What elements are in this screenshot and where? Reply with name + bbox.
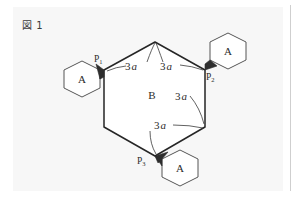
vertex-label-p3: P3: [137, 156, 146, 167]
edge-label-right: 3a: [175, 90, 188, 102]
figure-container: 図 1 B A A A 3a: [0, 0, 302, 197]
figure-diagram: B A A A 3a 3a 3a 3a P1 P2 P3: [0, 0, 302, 197]
hexagon-a-bottom-label: A: [176, 162, 184, 174]
edge-label-right-var: a: [182, 90, 188, 102]
vertex-label-p2: P2: [206, 72, 215, 83]
edge-label-bottom-var: a: [161, 119, 167, 131]
hexagon-a-upper-right-label: A: [224, 45, 232, 57]
vertex-label-p1: P1: [94, 54, 103, 65]
hexagon-b-label: B: [148, 89, 155, 101]
vertex-label-p2-sub: 2: [211, 76, 214, 83]
hexagon-a-left-label: A: [78, 73, 86, 85]
edge-label-top-right: 3a: [160, 60, 173, 72]
edge-label-right-num: 3: [175, 90, 181, 102]
edge-label-top-right-num: 3: [160, 60, 166, 72]
edge-label-bottom: 3a: [154, 119, 167, 131]
edge-label-top-left-num: 3: [125, 60, 131, 72]
edge-label-bottom-num: 3: [154, 119, 160, 131]
vertex-label-p3-sub: 3: [142, 160, 145, 167]
vertex-label-p1-sub: 1: [99, 58, 102, 65]
edge-label-top-left: 3a: [125, 60, 138, 72]
edge-label-top-left-var: a: [132, 60, 138, 72]
edge-label-top-right-var: a: [167, 60, 173, 72]
